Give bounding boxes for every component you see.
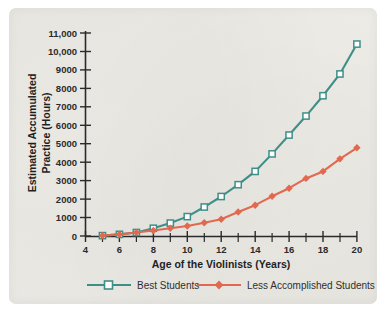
data-point-open-square <box>184 214 190 220</box>
y-axis-tick-labels: 11,000 10,000 9000 8000 7000 6000 5000 4… <box>48 28 77 242</box>
y-tick-label: 0 <box>72 231 77 242</box>
y-tick-label: 11,000 <box>48 28 77 39</box>
x-axis-title: Age of the Violinists (Years) <box>152 258 291 270</box>
legend-item-best-students[interactable]: Best Students <box>87 280 199 291</box>
data-point-filled-diamond <box>251 201 258 208</box>
y-axis-title-line1: Estimated Accumulated <box>26 74 38 193</box>
y-tick-label: 4000 <box>56 157 77 168</box>
data-point-open-square <box>286 132 292 138</box>
y-axis-title-line2: Practice (Hours) <box>40 92 52 173</box>
x-axis-tick-labels: 4 6 8 10 12 14 16 18 20 <box>83 244 362 255</box>
data-series-layer <box>99 41 361 239</box>
y-tick-label: 2000 <box>56 194 77 205</box>
y-tick-label: 5000 <box>56 138 77 149</box>
y-tick-label: 8000 <box>56 83 77 94</box>
y-tick-label: 10,000 <box>48 46 77 57</box>
axes <box>86 31 358 237</box>
data-point-open-square <box>269 151 275 157</box>
legend-marker-filled-diamond-icon <box>215 281 224 290</box>
legend-label-best-students: Best Students <box>137 280 199 291</box>
x-tick-label: 16 <box>284 244 295 255</box>
x-tick-label: 12 <box>216 244 227 255</box>
data-point-open-square <box>337 71 343 77</box>
data-point-filled-diamond <box>218 216 225 223</box>
data-point-filled-diamond <box>234 208 241 215</box>
series-best-students <box>99 41 360 239</box>
data-point-open-square <box>201 204 207 210</box>
y-tick-label: 9000 <box>56 64 77 75</box>
legend: Best Students Less Accomplished Students <box>87 280 375 291</box>
legend-item-less-accomplished-students[interactable]: Less Accomplished Students <box>197 280 375 291</box>
data-point-open-square <box>303 113 309 119</box>
x-tick-label: 10 <box>182 244 193 255</box>
chart-page: 11,000 10,000 9000 8000 7000 6000 5000 4… <box>0 0 386 313</box>
data-point-open-square <box>354 41 360 47</box>
x-tick-label: 4 <box>83 244 89 255</box>
data-point-open-square <box>320 93 326 99</box>
legend-marker-open-square-icon <box>105 281 113 289</box>
y-tick-label: 3000 <box>56 175 77 186</box>
legend-label-less-accomplished-students: Less Accomplished Students <box>247 280 375 291</box>
data-point-open-square <box>218 193 224 199</box>
data-point-filled-diamond <box>184 222 191 229</box>
data-point-filled-diamond <box>268 193 275 200</box>
y-tick-label: 7000 <box>56 101 77 112</box>
y-tick-label: 1000 <box>56 212 77 223</box>
x-tick-label: 14 <box>250 244 261 255</box>
data-point-open-square <box>252 168 258 174</box>
x-tick-label: 8 <box>151 244 156 255</box>
series-line <box>102 44 356 236</box>
data-point-filled-diamond <box>201 219 208 226</box>
y-tick-label: 6000 <box>56 120 77 131</box>
x-tick-label: 6 <box>117 244 122 255</box>
data-point-open-square <box>235 182 241 188</box>
x-tick-label: 18 <box>318 244 329 255</box>
x-tick-label: 20 <box>352 244 363 255</box>
line-chart: 11,000 10,000 9000 8000 7000 6000 5000 4… <box>0 0 386 313</box>
